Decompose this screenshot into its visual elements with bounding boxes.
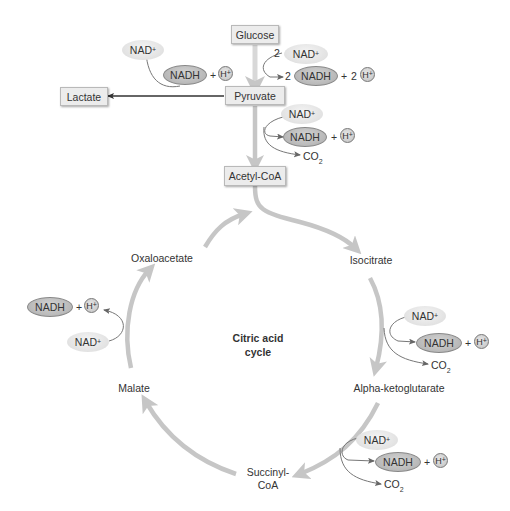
nad-text: NAD xyxy=(293,48,315,60)
pdh-plus: + xyxy=(331,131,337,143)
succinyl-coa-line1: Succinyl- xyxy=(238,466,298,479)
co2-subscript: 2 xyxy=(447,367,451,374)
mdh-nadh-ellipse: NADH xyxy=(27,297,73,317)
glycolysis-h-ion: H+ xyxy=(360,67,375,82)
pdh-nad-ellipse: NAD+ xyxy=(281,104,323,124)
nad-charge: + xyxy=(311,110,315,117)
h-charge: + xyxy=(227,69,231,76)
co2-subscript: 2 xyxy=(400,486,404,493)
succinyl-coa-line2: CoA xyxy=(238,479,298,492)
nadh-text: NADH xyxy=(383,456,413,468)
h-charge: + xyxy=(349,131,353,138)
h-charge: + xyxy=(93,301,97,308)
pdh-co2: CO2 xyxy=(303,150,323,164)
akgdh-co2: CO2 xyxy=(384,478,404,492)
nadh-text: NADH xyxy=(35,301,65,313)
co2-subscript: 2 xyxy=(319,158,323,165)
akgdh-nad-ellipse: NAD+ xyxy=(356,430,398,450)
idh-plus: + xyxy=(465,337,471,349)
pathway-arrows xyxy=(0,0,510,511)
idh-nad-ellipse: NAD+ xyxy=(404,306,446,326)
glucose-node: Glucose xyxy=(231,25,279,44)
glycolysis-h-coefficient: 2 xyxy=(351,70,357,82)
malate-label: Malate xyxy=(112,382,156,395)
nadh-text: NADH xyxy=(301,70,331,82)
glycolysis-plus: + xyxy=(341,70,347,82)
lactate-nadh-ellipse: NADH xyxy=(163,65,207,85)
nad-text: NAD xyxy=(412,310,434,322)
idh-nadh-ellipse: NADH xyxy=(416,333,462,353)
acetyl-coa-label: Acetyl-CoA xyxy=(229,170,282,182)
nad-charge: + xyxy=(315,50,319,57)
succinyl-coa-label: Succinyl- CoA xyxy=(238,466,298,492)
nad-text: NAD xyxy=(130,44,152,56)
nad-charge: + xyxy=(97,338,101,345)
lactate-label: Lactate xyxy=(67,91,101,103)
nad-charge: + xyxy=(434,312,438,319)
pyruvate-node: Pyruvate xyxy=(225,86,285,105)
alpha-ketoglutarate-label: Alpha-ketoglutarate xyxy=(344,382,454,395)
akgdh-h-ion: H+ xyxy=(433,453,448,468)
co2-text: CO xyxy=(303,150,319,162)
idh-h-ion: H+ xyxy=(474,334,489,349)
cycle-title-line2: cycle xyxy=(218,345,298,359)
nad-text: NAD xyxy=(364,434,386,446)
glycolysis-nad-ellipse: NAD+ xyxy=(284,44,328,64)
nadh-text: NADH xyxy=(424,337,454,349)
acetyl-coa-node: Acetyl-CoA xyxy=(224,166,286,186)
pyruvate-label: Pyruvate xyxy=(234,90,275,102)
glycolysis-nadh-coefficient: 2 xyxy=(285,70,291,82)
isocitrate-label: Isocitrate xyxy=(341,254,401,267)
akgdh-plus: + xyxy=(424,456,430,468)
cycle-title-line1: Citric acid xyxy=(218,331,298,345)
glucose-label: Glucose xyxy=(236,29,275,41)
h-charge: + xyxy=(483,337,487,344)
mdh-h-ion: H+ xyxy=(84,298,99,313)
lactate-plus: + xyxy=(210,69,216,81)
lactate-h-ion: H+ xyxy=(218,66,233,81)
nadh-text: NADH xyxy=(170,69,200,81)
cycle-title: Citric acid cycle xyxy=(218,331,298,359)
pdh-nadh-ellipse: NADH xyxy=(283,127,327,147)
co2-text: CO xyxy=(384,478,400,490)
oxaloacetate-label: Oxaloacetate xyxy=(122,252,202,265)
idh-co2: CO2 xyxy=(431,359,451,373)
nadh-text: NADH xyxy=(290,131,320,143)
glycolysis-nadh-ellipse: NADH xyxy=(294,66,338,86)
mdh-plus: + xyxy=(76,301,82,313)
h-charge: + xyxy=(442,456,446,463)
citric-acid-cycle-diagram: Glucose Pyruvate Lactate Acetyl-CoA Isoc… xyxy=(0,0,510,511)
lactate-node: Lactate xyxy=(60,87,108,106)
co2-text: CO xyxy=(431,359,447,371)
akgdh-nadh-ellipse: NADH xyxy=(375,452,421,472)
nad-text: NAD xyxy=(75,336,97,348)
glycolysis-nad-coefficient: 2 xyxy=(274,47,280,59)
lactate-nad-ellipse: NAD+ xyxy=(122,40,164,60)
h-charge: + xyxy=(369,70,373,77)
mdh-nad-ellipse: NAD+ xyxy=(67,332,109,352)
pdh-h-ion: H+ xyxy=(340,128,355,143)
nad-charge: + xyxy=(152,46,156,53)
nad-charge: + xyxy=(386,436,390,443)
nad-text: NAD xyxy=(289,108,311,120)
